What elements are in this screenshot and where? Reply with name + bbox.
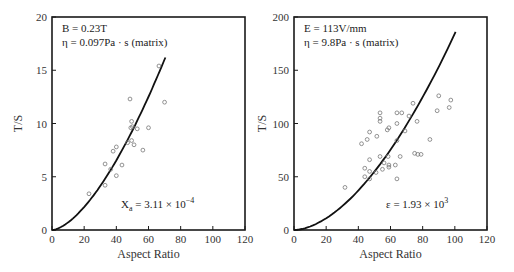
x-tick-label: 60: [143, 233, 155, 245]
left-chart-magnetic-field: 02040608010012005101520Aspect RatioT/SB …: [11, 11, 254, 261]
data-point: [382, 161, 386, 165]
data-point: [428, 138, 432, 142]
data-point: [111, 149, 115, 153]
annotation-viscosity: η = 9.8Pa · s (matrix): [304, 36, 399, 49]
data-point: [363, 166, 367, 170]
x-tick-label: 40: [111, 233, 123, 245]
data-point: [363, 175, 367, 179]
y-tick-label: 50: [278, 171, 290, 183]
x-tick-label: 20: [321, 233, 333, 245]
data-point: [375, 134, 379, 138]
y-tick-label: 200: [273, 11, 290, 23]
data-point: [368, 130, 372, 134]
data-point: [130, 139, 134, 143]
data-point: [343, 186, 347, 190]
x-tick-label: 40: [353, 233, 365, 245]
y-tick-label: 15: [36, 64, 48, 76]
x-axis-label: Aspect Ratio: [117, 247, 179, 261]
data-point: [378, 155, 382, 159]
y-axis-label: T/S: [255, 115, 269, 132]
data-point: [132, 143, 136, 147]
right-chart-electric-field: 020406080100120050100150200Aspect RatioT…: [255, 11, 496, 261]
y-tick-label: 10: [36, 118, 48, 130]
annotation-viscosity: η = 0.097Pa · s (matrix): [62, 36, 168, 49]
annotation-condition: B = 0.23T: [62, 22, 107, 34]
data-point: [103, 183, 107, 187]
y-tick-label: 5: [42, 171, 48, 183]
data-point: [395, 177, 399, 181]
data-point: [120, 163, 124, 167]
x-tick-label: 80: [417, 233, 429, 245]
data-point: [103, 162, 107, 166]
x-tick-label: 100: [447, 233, 464, 245]
data-point: [411, 101, 415, 105]
y-tick-label: 150: [273, 64, 290, 76]
data-point: [449, 98, 453, 102]
data-point: [437, 94, 441, 98]
figure-two-scatter-plots: 02040608010012005101520Aspect RatioT/SB …: [0, 0, 514, 272]
data-point: [368, 170, 372, 174]
data-point: [87, 192, 91, 196]
data-point: [395, 111, 399, 115]
data-point: [398, 155, 402, 159]
data-point: [415, 119, 419, 123]
data-point: [447, 106, 451, 110]
x-tick-label: 60: [385, 233, 397, 245]
x-tick-label: 0: [291, 233, 297, 245]
data-point: [128, 97, 132, 101]
data-point: [163, 100, 167, 104]
x-tick-label: 20: [79, 233, 91, 245]
data-point: [381, 167, 385, 171]
data-point: [368, 158, 372, 162]
data-point: [378, 111, 382, 115]
data-point: [141, 148, 145, 152]
data-point: [130, 119, 134, 123]
x-tick-label: 0: [49, 233, 55, 245]
data-point: [114, 174, 118, 178]
data-point: [157, 64, 161, 68]
annotation-condition: E = 113V/mm: [304, 22, 367, 34]
data-point: [395, 122, 399, 126]
data-point: [407, 114, 411, 118]
y-axis-label: T/S: [11, 115, 25, 132]
data-point: [393, 163, 397, 167]
data-point: [135, 127, 139, 131]
y-tick-label: 20: [36, 11, 48, 23]
y-tick-label: 0: [42, 224, 48, 236]
x-tick-label: 100: [205, 233, 222, 245]
y-tick-label: 100: [273, 118, 290, 130]
data-point: [400, 111, 404, 115]
data-point: [365, 138, 369, 142]
data-point: [360, 142, 364, 146]
y-tick-label: 0: [284, 224, 290, 236]
data-point: [114, 145, 118, 149]
x-axis-label: Aspect Ratio: [359, 247, 421, 261]
annotation-fit-parameter: Xa = 3.11 × 10−4: [121, 196, 194, 213]
data-point: [435, 109, 439, 113]
data-point: [147, 126, 151, 130]
x-tick-label: 120: [479, 233, 496, 245]
annotation-fit-parameter: ε = 1.93 × 103: [386, 196, 448, 210]
x-tick-label: 120: [237, 233, 254, 245]
x-tick-label: 80: [175, 233, 187, 245]
